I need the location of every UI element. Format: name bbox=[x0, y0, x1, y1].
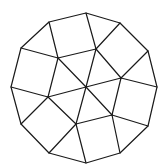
edge-line bbox=[48, 97, 76, 124]
edge-line bbox=[86, 49, 96, 87]
edge-line bbox=[112, 115, 148, 126]
edge-line bbox=[96, 23, 120, 49]
inner-edges bbox=[11, 13, 157, 163]
edge-line bbox=[21, 48, 58, 58]
edge-line bbox=[121, 78, 157, 87]
edge-line bbox=[76, 87, 86, 124]
edge-line bbox=[49, 124, 76, 153]
edge-line bbox=[48, 58, 58, 97]
edge-line bbox=[58, 58, 86, 87]
edge-line bbox=[86, 13, 96, 49]
edge-line bbox=[86, 78, 121, 87]
edge-line bbox=[121, 51, 148, 78]
edge-line bbox=[76, 124, 86, 163]
dodecagon-tiling-diagram bbox=[0, 0, 168, 167]
edge-line bbox=[21, 97, 48, 124]
edge-line bbox=[49, 22, 58, 58]
edge-line bbox=[76, 115, 112, 124]
edge-line bbox=[58, 49, 96, 58]
edge-line bbox=[96, 49, 121, 78]
edge-line bbox=[86, 87, 112, 115]
edge-line bbox=[11, 87, 48, 97]
edge-line bbox=[48, 87, 86, 97]
edge-line bbox=[112, 115, 120, 153]
edge-line bbox=[112, 78, 121, 115]
